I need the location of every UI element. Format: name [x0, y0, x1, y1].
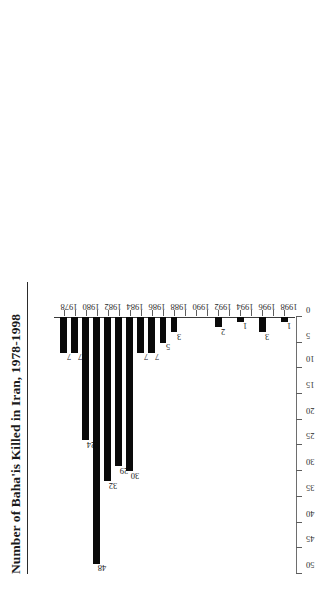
value-tick: [296, 393, 302, 394]
category-tick-label: 1992: [215, 302, 232, 312]
category-tick-label: 1984: [126, 302, 143, 312]
category-tick-label: 1982: [104, 302, 121, 312]
page-title: Number of Baha'is Killed in Iran, 1978-1…: [8, 274, 24, 574]
value-tick-label: 20: [306, 406, 315, 416]
bar-1982: [104, 317, 111, 481]
value-tick-label: 5: [306, 331, 310, 341]
value-tick-label: 50: [306, 560, 315, 570]
value-tick: [296, 573, 302, 574]
category-tick-label: 1990: [193, 302, 210, 312]
bar-1987: [160, 317, 167, 343]
bar-1980: [82, 317, 89, 440]
bar-1986: [148, 317, 155, 353]
value-tick: [296, 496, 302, 497]
value-tick-label: 30: [306, 457, 315, 467]
bar-value-label: 48: [97, 563, 106, 573]
bar-value-label: 30: [131, 470, 140, 480]
bar-value-label: 1: [243, 321, 247, 331]
value-tick-label: 45: [306, 534, 315, 544]
bar-1983: [115, 317, 122, 466]
value-tick: [296, 547, 302, 548]
category-tick-label: 1988: [171, 302, 188, 312]
bar-value-label: 2: [221, 326, 225, 336]
bar-value-label: 7: [77, 352, 81, 362]
plot-area: 77244832293077532131: [58, 317, 290, 574]
bar-value-label: 7: [155, 352, 159, 362]
value-tick-label: 15: [306, 380, 315, 390]
bar-value-label: 5: [166, 342, 170, 352]
value-tick: [296, 342, 302, 343]
value-tick: [296, 316, 302, 317]
value-tick: [296, 522, 302, 523]
category-tick-label: 1998: [281, 302, 298, 312]
value-tick-label: 10: [306, 354, 315, 364]
bar-1988: [171, 317, 178, 332]
bar-value-label: 7: [66, 352, 70, 362]
value-tick: [296, 445, 302, 446]
bar-1984: [126, 317, 133, 471]
bar-1979: [71, 317, 78, 353]
bar-1996: [259, 317, 266, 332]
bar-value-label: 7: [144, 352, 148, 362]
value-tick-label: 25: [306, 431, 315, 441]
category-tick-label: 1980: [82, 302, 99, 312]
bar-value-label: 3: [177, 331, 181, 341]
bar-1978: [60, 317, 67, 353]
chart-title-block: Number of Baha'is Killed in Iran, 1978-1…: [8, 274, 28, 574]
bar-1992: [215, 317, 222, 327]
value-tick-label: 40: [306, 508, 315, 518]
bar-value-label: 1: [287, 321, 291, 331]
bar-value-label: 32: [108, 480, 117, 490]
bar-1981: [93, 317, 100, 564]
bar-1985: [137, 317, 144, 353]
value-tick-label: 0: [306, 305, 310, 315]
value-tick: [296, 419, 302, 420]
value-tick: [296, 470, 302, 471]
chart-figure: Number of Baha'is Killed in Iran, 1978-1…: [0, 0, 331, 612]
title-underline: [27, 282, 28, 574]
category-tick-label: 1986: [148, 302, 165, 312]
category-tick-label: 1978: [60, 302, 77, 312]
category-tick-label: 1994: [237, 302, 254, 312]
value-tick-label: 35: [306, 483, 315, 493]
value-tick: [296, 367, 302, 368]
category-tick-label: 1996: [259, 302, 276, 312]
bar-value-label: 3: [265, 331, 269, 341]
